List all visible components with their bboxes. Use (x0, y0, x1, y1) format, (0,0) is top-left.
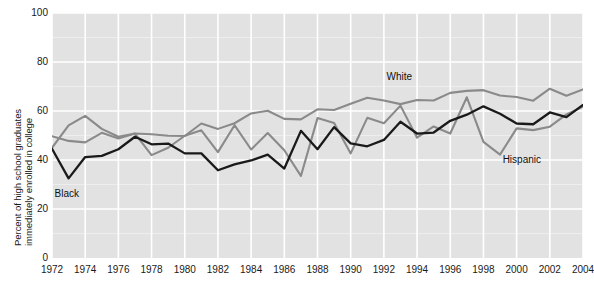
x-tick-label: 1990 (340, 264, 362, 275)
x-tick-label: 2002 (539, 264, 561, 275)
x-tick-label: 1972 (41, 264, 63, 275)
x-tick-label: 2004 (572, 264, 594, 275)
x-tick-label: 2000 (506, 264, 528, 275)
x-axis-ticks: 1972197419761978198019821984198619881990… (0, 0, 594, 284)
x-tick-label: 1980 (174, 264, 196, 275)
series-label-hispanic: Hispanic (503, 154, 541, 165)
series-label-black: Black (55, 188, 79, 199)
series-label-white: White (386, 71, 412, 82)
x-tick-label: 1974 (74, 264, 96, 275)
chart-container: Percent of high school graduates immedia… (0, 0, 594, 284)
x-tick-label: 1998 (472, 264, 494, 275)
x-tick-label: 1992 (373, 264, 395, 275)
x-tick-label: 1978 (140, 264, 162, 275)
x-tick-label: 1984 (240, 264, 262, 275)
x-tick-label: 1982 (207, 264, 229, 275)
x-tick-label: 1988 (306, 264, 328, 275)
x-tick-label: 1976 (107, 264, 129, 275)
x-tick-label: 1994 (406, 264, 428, 275)
x-tick-label: 1996 (439, 264, 461, 275)
x-tick-label: 1986 (273, 264, 295, 275)
